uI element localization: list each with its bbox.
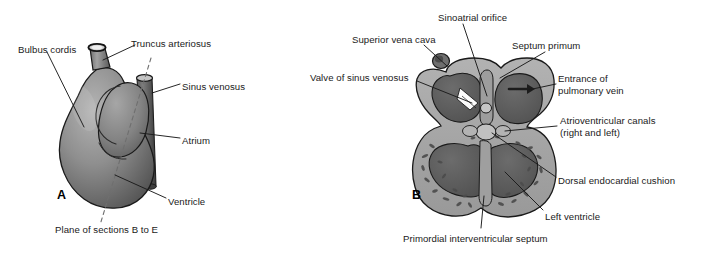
panel-b-illustration	[413, 24, 557, 228]
sinoatrial-orifice-marker	[481, 103, 492, 113]
label-sinus-venosus: Sinus venosus	[182, 81, 245, 93]
label-primordial-interventricular-septum: Primordial interventricular septum	[403, 233, 548, 245]
truncus-arteriosus-tube	[88, 44, 110, 70]
primordial-interventricular-septum-shape	[479, 141, 492, 206]
label-sinoatrial-orifice: Sinoatrial orifice	[438, 12, 507, 24]
panel-letter-b: B	[412, 188, 421, 202]
label-bulbus-cordis: Bulbus cordis	[18, 44, 76, 56]
panel-letter-a: A	[57, 188, 66, 202]
label-atrium: Atrium	[182, 135, 210, 147]
label-dorsal-endocardial-cushion: Dorsal endocardial cushion	[558, 175, 675, 187]
label-plane-of-sections: Plane of sections B to E	[55, 224, 158, 236]
dorsal-endocardial-cushion-shape	[476, 124, 496, 140]
label-entrance-of-pulmonary-vein: Entrance of pulmonary vein	[558, 73, 624, 96]
anatomical-figure: Bulbus cordis Truncus arteriosus Sinus v…	[0, 0, 710, 257]
label-ventricle: Ventricle	[168, 196, 205, 208]
label-atrioventricular-canals: Atrioventricular canals (right and left)	[560, 115, 656, 138]
left-atrium-chamber	[495, 74, 542, 124]
label-left-ventricle: Left ventricle	[545, 211, 600, 223]
septum-primum-shape	[480, 70, 493, 125]
label-truncus-arteriosus: Truncus arteriosus	[131, 38, 211, 50]
label-valve-of-sinus-venosus: Valve of sinus venosus	[310, 72, 409, 84]
label-superior-vena-cava: Superior vena cava	[352, 34, 436, 46]
panel-a-illustration	[47, 44, 180, 225]
av-canal-right	[463, 126, 478, 137]
label-septum-primum: Septum primum	[512, 40, 580, 52]
